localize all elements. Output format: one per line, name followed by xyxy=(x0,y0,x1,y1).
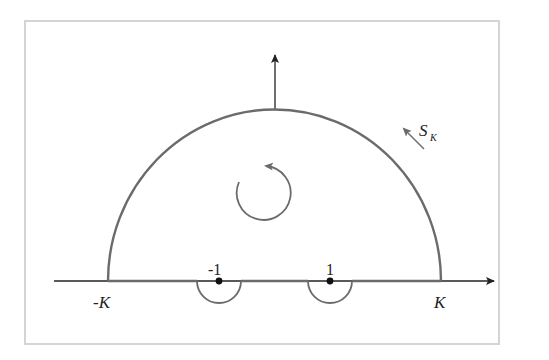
point-plus-one xyxy=(327,278,334,285)
label-pos-k: K xyxy=(433,293,447,312)
large-semicircle-arc xyxy=(108,109,441,281)
counterclockwise-arrow-icon xyxy=(237,166,291,220)
label-neg-k: -K xyxy=(93,293,112,312)
contour-path xyxy=(108,109,441,281)
indents xyxy=(197,281,352,303)
label-minus-one: -1 xyxy=(208,261,221,278)
label-plus-one: 1 xyxy=(326,261,334,278)
point-minus-one xyxy=(216,278,223,285)
label-s: S xyxy=(419,121,428,140)
label-s-subscript: K xyxy=(429,132,438,143)
contour-diagram: S K -1 1 -K K xyxy=(0,0,549,360)
